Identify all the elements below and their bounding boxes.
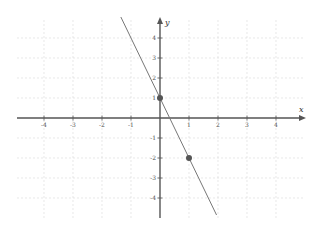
y-axis-arrow-icon (157, 17, 163, 24)
data-point (186, 155, 192, 161)
x-tick-label: 4 (274, 121, 278, 128)
y-tick-label: 4 (152, 34, 156, 41)
x-axis-arrow-icon (299, 115, 306, 121)
x-axis-label: x (299, 105, 304, 114)
data-point (157, 95, 163, 101)
grid (17, 20, 305, 218)
x-tick-label: -2 (99, 121, 105, 128)
y-tick-label: -1 (150, 134, 156, 141)
x-tick-label: 3 (245, 121, 249, 128)
y-tick-label: -3 (150, 174, 156, 181)
series-line (121, 17, 217, 215)
plotted-line (121, 17, 217, 215)
y-tick-label: 1 (152, 94, 156, 101)
axes: xy (17, 17, 306, 218)
y-tick-label: -2 (150, 154, 156, 161)
x-tick-label: 1 (187, 121, 191, 128)
y-tick-label: -4 (150, 194, 156, 201)
x-tick-label: -4 (41, 121, 47, 128)
y-tick-label: 3 (152, 54, 156, 61)
x-tick-label: -1 (128, 121, 134, 128)
x-tick-label: -3 (70, 121, 76, 128)
coordinate-plane: xy -4-3-2-112344321-1-2-3-4 (0, 0, 319, 230)
y-axis-label: y (164, 18, 170, 27)
x-tick-label: 2 (216, 121, 220, 128)
y-tick-label: 2 (152, 74, 156, 81)
